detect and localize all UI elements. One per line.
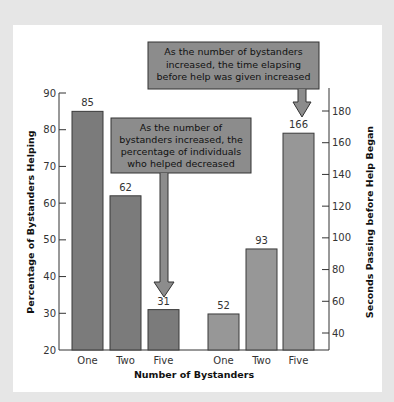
bar-percentage-five — [148, 310, 179, 350]
callout-time-text: increased, the time elapsing — [166, 59, 301, 70]
category-label: One — [213, 355, 233, 366]
left-axis-tick-label: 50 — [43, 234, 56, 245]
bar-value-label: 31 — [157, 296, 170, 307]
bar-seconds-two — [246, 249, 277, 350]
callout-time-arrow-icon — [293, 89, 311, 117]
right-axis-tick-label: 100 — [332, 232, 351, 243]
bar-seconds-five — [283, 133, 314, 350]
bar-value-label: 93 — [255, 235, 268, 246]
right-axis-tick-label: 180 — [332, 106, 351, 117]
bar-value-label: 166 — [289, 119, 308, 130]
callout-time-text: before help was given increased — [157, 71, 311, 82]
callout-percentage-text: percentage of individuals — [121, 146, 241, 157]
left-axis-title: Percentage of Bystanders Helping — [25, 130, 36, 313]
bar-value-label: 62 — [119, 182, 132, 193]
left-axis-tick-label: 40 — [43, 271, 56, 282]
callout-percentage-text: As the number of — [140, 122, 223, 133]
callout-percentage-text: bystanders increased, the — [119, 134, 243, 145]
x-axis-title: Number of Bystanders — [134, 369, 255, 380]
bar-value-label: 52 — [217, 300, 230, 311]
right-axis-title: Seconds Passing before Help Began — [364, 126, 375, 319]
right-axis-tick-label: 80 — [332, 264, 345, 275]
bystander-chart: 203040506070809040608010012014016018085O… — [0, 0, 394, 402]
left-axis-tick-label: 60 — [43, 198, 56, 209]
left-axis-tick-label: 20 — [43, 345, 56, 356]
right-axis-tick-label: 140 — [332, 169, 351, 180]
right-axis-tick-label: 40 — [332, 328, 345, 339]
left-axis-tick-label: 80 — [43, 124, 56, 135]
category-label: One — [77, 355, 97, 366]
category-label: Five — [289, 355, 309, 366]
category-label: Two — [251, 355, 271, 366]
left-axis-tick-label: 30 — [43, 308, 56, 319]
bar-percentage-two — [110, 196, 141, 350]
left-axis-tick-label: 90 — [43, 88, 56, 99]
right-axis-tick-label: 60 — [332, 296, 345, 307]
bar-seconds-one — [208, 314, 239, 350]
bar-percentage-one — [72, 111, 103, 350]
right-axis-tick-label: 160 — [332, 137, 351, 148]
category-label: Five — [154, 355, 174, 366]
callout-percentage-arrow-icon — [154, 173, 174, 297]
right-axis-tick-label: 120 — [332, 201, 351, 212]
left-axis-tick-label: 70 — [43, 161, 56, 172]
callout-time-text: As the number of bystanders — [164, 46, 302, 57]
bar-value-label: 85 — [81, 97, 94, 108]
category-label: Two — [115, 355, 135, 366]
callout-percentage-text: who helped decreased — [127, 158, 234, 169]
